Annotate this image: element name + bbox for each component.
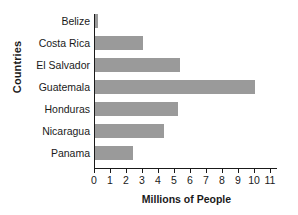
- bar-row: [95, 102, 178, 116]
- x-tick-mark: [206, 169, 207, 173]
- bar: [95, 102, 178, 116]
- x-tick-mark: [270, 169, 271, 173]
- x-tick-label: 11: [260, 174, 280, 187]
- bar: [95, 36, 143, 50]
- y-tick-label: Costa Rica: [10, 36, 90, 50]
- x-tick-mark: [110, 169, 111, 173]
- y-tick-label: El Salvador: [10, 58, 90, 72]
- bar-row: [95, 14, 98, 28]
- x-tick-mark: [174, 169, 175, 173]
- bar-row: [95, 58, 180, 72]
- bar: [95, 58, 180, 72]
- bar-row: [95, 80, 255, 94]
- bar: [95, 124, 164, 138]
- y-tick-label: Belize: [10, 14, 90, 28]
- y-axis-tick-labels: BelizeCosta RicaEl SalvadorGuatemalaHond…: [10, 14, 90, 168]
- x-tick-mark: [238, 169, 239, 173]
- plot-area: [94, 14, 279, 168]
- x-tick-mark: [142, 169, 143, 173]
- bar: [95, 14, 98, 28]
- x-tick-mark: [158, 169, 159, 173]
- bar: [95, 146, 133, 160]
- x-axis-tick-labels: 01234567891011: [94, 174, 284, 188]
- bar-row: [95, 124, 164, 138]
- x-tick-mark: [254, 169, 255, 173]
- x-tick-mark: [190, 169, 191, 173]
- y-tick-label: Nicaragua: [10, 124, 90, 138]
- x-axis-title: Millions of People: [94, 193, 279, 205]
- bar-chart-figure: Countries BelizeCosta RicaEl SalvadorGua…: [0, 0, 298, 215]
- bar-row: [95, 36, 143, 50]
- bar: [95, 80, 255, 94]
- x-tick-mark: [126, 169, 127, 173]
- y-tick-label: Panama: [10, 146, 90, 160]
- x-tick-mark: [94, 169, 95, 173]
- y-tick-label: Guatemala: [10, 80, 90, 94]
- x-tick-mark: [222, 169, 223, 173]
- y-tick-label: Honduras: [10, 102, 90, 116]
- bar-row: [95, 146, 133, 160]
